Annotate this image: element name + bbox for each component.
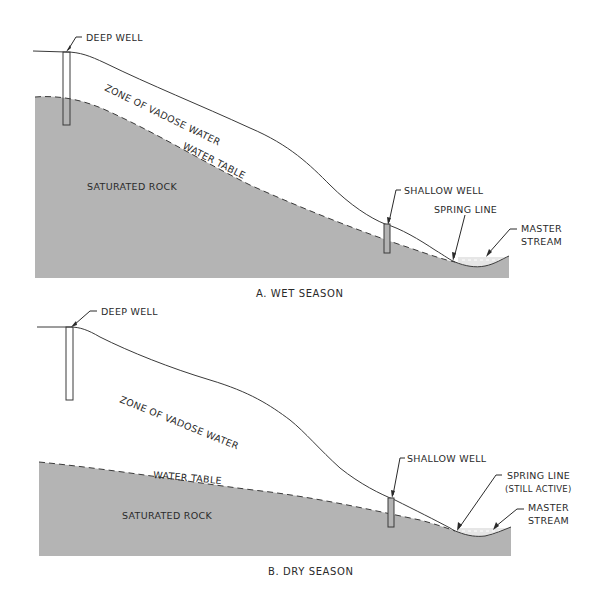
label-master: MASTER bbox=[528, 502, 569, 513]
caption-wet-season: A. WET SEASON bbox=[256, 288, 344, 299]
shallow-well-leader bbox=[389, 190, 401, 222]
spring-line-arrowhead-icon bbox=[452, 252, 456, 261]
shallow-well-shaft bbox=[384, 224, 390, 253]
label-shallow-well: SHALLOW WELL bbox=[407, 453, 487, 464]
label-master: MASTER bbox=[521, 223, 562, 234]
label-saturated-rock: SATURATED ROCK bbox=[87, 181, 177, 192]
label-stream: STREAM bbox=[521, 236, 562, 247]
deep-well-leader bbox=[74, 311, 97, 325]
panel-wet-season: DEEP WELL ZONE OF VADOSE WATER WATER TAB… bbox=[33, 32, 562, 299]
label-spring-line: SPRING LINE bbox=[434, 204, 497, 215]
spring-line-leader bbox=[459, 475, 502, 528]
master-stream-leader bbox=[495, 509, 524, 527]
panel-dry-season: DEEP WELL ZONE OF VADOSE WATER WATER TAB… bbox=[37, 306, 572, 577]
saturated-rock-region bbox=[39, 462, 511, 556]
diagram-canvas: DEEP WELL ZONE OF VADOSE WATER WATER TAB… bbox=[0, 0, 604, 589]
label-deep-well: DEEP WELL bbox=[86, 32, 143, 43]
label-still-active: (STILL ACTIVE) bbox=[505, 484, 572, 494]
deep-well-arrowhead-icon bbox=[71, 321, 77, 327]
master-stream-leader bbox=[488, 229, 517, 254]
shallow-well-arrowhead-icon bbox=[391, 490, 395, 498]
label-spring-line: SPRING LINE bbox=[507, 470, 570, 481]
label-shallow-well: SHALLOW WELL bbox=[404, 185, 484, 196]
label-stream: STREAM bbox=[528, 515, 569, 526]
shallow-well-leader bbox=[393, 458, 405, 495]
label-saturated-rock: SATURATED ROCK bbox=[122, 510, 212, 521]
shallow-well-shaft bbox=[388, 498, 394, 527]
deep-well-arrowhead-icon bbox=[66, 45, 71, 52]
label-zone-vadose-water: ZONE OF VADOSE WATER bbox=[118, 394, 240, 452]
deep-well-shaft bbox=[66, 327, 73, 400]
caption-dry-season: B. DRY SEASON bbox=[268, 566, 354, 577]
label-deep-well: DEEP WELL bbox=[101, 306, 158, 317]
spring-line-leader bbox=[454, 215, 465, 258]
